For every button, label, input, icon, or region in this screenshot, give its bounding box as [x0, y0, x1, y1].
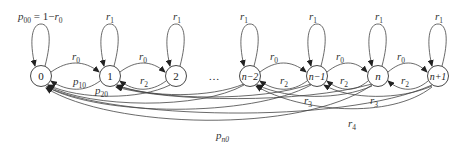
state-node-0: 0 [31, 66, 52, 87]
edge-label-n-1-n: r0 [336, 50, 344, 65]
state-node-1: 1 [100, 66, 121, 87]
state-label: n [375, 70, 381, 82]
self-loop-label-n-2: r1 [240, 10, 248, 25]
state-label: 1 [107, 70, 113, 82]
state-label: n−2 [242, 71, 259, 82]
self-loops [32, 24, 446, 66]
edge-label-n-0: pn0 [215, 129, 229, 144]
self-loop-n-1 [308, 24, 325, 66]
state-label: n−1 [309, 71, 326, 82]
edge-label-n+1-n-2: r4 [348, 117, 356, 132]
edge-label-n-1-n-2: r2 [280, 74, 288, 89]
self-loop-label-2: r1 [173, 10, 181, 25]
self-loop-label-n+1: r1 [435, 10, 443, 25]
self-loop-label-0: p00 = 1−r0 [17, 10, 63, 25]
self-loop-n+1 [429, 24, 446, 66]
state-node-n+1: n+1 [428, 66, 449, 87]
self-loop-n-2 [241, 24, 258, 66]
self-loop-2 [167, 24, 184, 66]
state-node-2: 2 [166, 66, 187, 87]
edge-label-2-0: p20 [94, 84, 108, 99]
ellipsis: … [209, 70, 220, 82]
self-loop-1 [101, 24, 118, 66]
self-loop-label-n-1: r1 [309, 10, 317, 25]
state-label: 0 [38, 70, 44, 82]
edge-label-2-1: r2 [140, 74, 148, 89]
edge-label-n-2-n-1: r0 [270, 50, 278, 65]
state-node-n-2: n−2 [240, 66, 261, 87]
edge-label-n-n+1: r0 [397, 50, 405, 65]
edge-label-n+1-n: r2 [401, 74, 409, 89]
edge-label-n-n-1: r2 [340, 74, 348, 89]
markov-chain-diagram: 0 1 2 … n−2 n−1 n n+1 p00 = 1−r0 [0, 0, 466, 148]
self-loop-label-1: r1 [106, 10, 114, 25]
state-label: n+1 [430, 71, 447, 82]
edge-n-1-n [327, 63, 367, 72]
state-node-n: n [368, 66, 389, 87]
state-node-n-1: n−1 [307, 66, 328, 87]
self-loop-label-n: r1 [375, 10, 383, 25]
edge-0-1 [51, 63, 99, 72]
self-loop-0 [32, 24, 49, 66]
edge-n-2-n-1 [260, 63, 306, 72]
edge-n-1-0 [47, 85, 311, 109]
state-label: 2 [173, 70, 179, 82]
edge-n-n+1 [388, 63, 427, 72]
edge-label-1-0: p10 [72, 75, 86, 90]
nodes: 0 1 2 … n−2 n−1 n n+1 [31, 66, 449, 87]
self-loop-n [369, 24, 386, 66]
